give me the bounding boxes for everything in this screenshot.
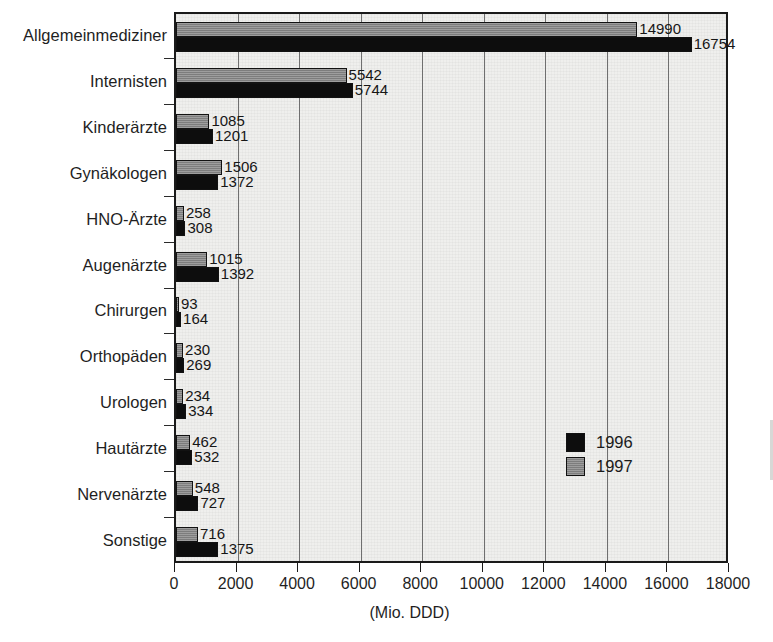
x-axis-label-12000: 12000	[521, 576, 566, 592]
y-axis-tick-4	[164, 196, 174, 197]
x-axis-label-18000: 18000	[706, 576, 751, 592]
bar-1997-10	[176, 481, 193, 496]
bar-1996-0	[176, 37, 692, 52]
y-axis-tick-3	[164, 150, 174, 151]
bar-value-1996-8: 334	[188, 403, 213, 418]
bar-value-1997-4: 258	[186, 205, 211, 220]
plot-area	[174, 12, 728, 563]
bar-value-1997-11: 716	[200, 526, 225, 541]
y-axis-tick-9	[164, 425, 174, 426]
legend-swatch-1996-icon	[566, 433, 585, 452]
bar-value-1997-1: 5542	[349, 67, 382, 82]
x-axis-tick-10000	[482, 563, 483, 572]
bar-1996-3	[176, 175, 218, 190]
x-axis-title-text: (Mio. DDD)	[370, 604, 450, 621]
bar-1996-4	[176, 221, 185, 236]
bar-value-1997-7: 230	[185, 342, 210, 357]
bar-value-1997-3: 1506	[224, 159, 257, 174]
bar-value-1996-11: 1375	[220, 541, 253, 556]
legend-item-1996: 1996	[566, 430, 633, 454]
legend: 1996 1997	[566, 430, 633, 478]
bar-1996-7	[176, 358, 184, 373]
category-label-0: Allgemeinmediziner	[23, 27, 167, 44]
legend-label-1997: 1997	[596, 457, 633, 476]
x-axis-tick-0	[174, 563, 175, 572]
x-axis-tick-8000	[420, 563, 421, 572]
bar-value-1996-4: 308	[187, 220, 212, 235]
bar-value-1996-5: 1392	[221, 266, 254, 281]
bar-1996-10	[176, 496, 198, 511]
bar-1997-9	[176, 435, 190, 450]
x-axis-tick-18000	[728, 563, 729, 572]
bar-1997-8	[176, 389, 183, 404]
bar-value-1997-2: 1085	[211, 113, 244, 128]
y-axis-tick-7	[164, 333, 174, 334]
category-label-6: Chirurgen	[95, 302, 167, 319]
bar-value-1997-6: 93	[181, 296, 198, 311]
bar-value-1996-3: 1372	[220, 174, 253, 189]
gridline-10000	[484, 14, 485, 561]
x-axis-label-10000: 10000	[460, 576, 505, 592]
bar-1996-9	[176, 450, 192, 465]
bar-value-1996-7: 269	[186, 357, 211, 372]
category-label-1: Internisten	[90, 73, 167, 90]
category-label-11: Sonstige	[103, 532, 167, 549]
bar-chart: AllgemeinmedizinerInternistenKinderärzte…	[0, 0, 773, 642]
bar-value-1997-10: 548	[195, 480, 220, 495]
x-axis-title: (Mio. DDD)	[0, 604, 773, 622]
gridline-14000	[607, 14, 608, 561]
bar-1996-1	[176, 83, 353, 98]
x-axis-tick-4000	[297, 563, 298, 572]
bar-1996-8	[176, 404, 186, 419]
y-axis-tick-10	[164, 471, 174, 472]
bar-value-1997-5: 1015	[209, 251, 242, 266]
category-label-10: Nervenärzte	[77, 486, 167, 503]
x-axis-label-4000: 4000	[279, 576, 315, 592]
x-axis-label-16000: 16000	[644, 576, 689, 592]
bar-1997-11	[176, 527, 198, 542]
bar-1997-7	[176, 343, 183, 358]
category-label-8: Urologen	[100, 394, 167, 411]
bar-value-1996-6: 164	[183, 311, 208, 326]
bar-1997-0	[176, 22, 637, 37]
bar-value-1996-2: 1201	[215, 128, 248, 143]
legend-swatch-1997-icon	[566, 457, 585, 476]
x-axis-tick-16000	[666, 563, 667, 572]
y-axis-tick-1	[164, 58, 174, 59]
bar-1997-3	[176, 160, 222, 175]
y-axis-tick-8	[164, 379, 174, 380]
category-label-3: Gynäkologen	[70, 165, 167, 182]
gridline-12000	[545, 14, 546, 561]
bar-1996-11	[176, 542, 218, 557]
plot-inner	[176, 14, 726, 561]
bar-1997-5	[176, 252, 207, 267]
y-axis-tick-2	[164, 104, 174, 105]
legend-label-1996: 1996	[596, 433, 633, 452]
bar-value-1997-9: 462	[192, 434, 217, 449]
bar-value-1996-9: 532	[194, 449, 219, 464]
bar-1996-5	[176, 267, 219, 282]
category-label-7: Orthopäden	[80, 348, 167, 365]
bar-1997-6	[176, 297, 179, 312]
category-label-5: Augenärzte	[83, 257, 167, 274]
y-axis-tick-6	[164, 288, 174, 289]
category-label-2: Kinderärzte	[83, 119, 167, 136]
x-axis-tick-14000	[605, 563, 606, 572]
bar-1997-2	[176, 114, 209, 129]
x-axis-tick-12000	[543, 563, 544, 572]
category-label-4: HNO-Ärzte	[86, 211, 167, 228]
x-axis-tick-6000	[359, 563, 360, 572]
bar-value-1997-8: 234	[185, 388, 210, 403]
bar-1997-4	[176, 206, 184, 221]
x-axis-label-14000: 14000	[583, 576, 628, 592]
x-axis-label-0: 0	[170, 576, 179, 592]
category-label-9: Hautärzte	[95, 440, 167, 457]
x-axis-label-2000: 2000	[218, 576, 254, 592]
y-axis-tick-11	[164, 517, 174, 518]
bar-value-1996-10: 727	[200, 495, 225, 510]
gridline-16000	[668, 14, 669, 561]
bar-1996-6	[176, 312, 181, 327]
legend-item-1997: 1997	[566, 454, 633, 478]
bar-value-1996-0: 16754	[694, 36, 736, 51]
bar-1996-2	[176, 129, 213, 144]
